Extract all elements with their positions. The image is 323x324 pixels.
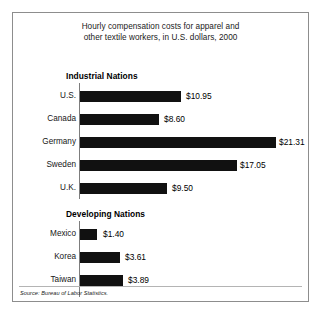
bar-value-canada: $8.60 [164,113,185,125]
bar-rect-us [80,91,181,102]
bar-rect-taiwan [80,275,123,286]
bar-row-mexico: Mexico $1.40 [13,229,308,240]
bar-rect-uk [80,183,167,194]
source-note: Source: Bureau of Labor Statistics. [20,290,108,296]
group-header-industrial-nations: Industrial Nations [66,71,138,81]
bar-value-germany: $21.31 [279,136,305,148]
bar-value-us: $10.95 [186,90,212,102]
bar-value-uk: $9.50 [172,182,193,194]
bar-label-taiwan: Taiwan [13,274,76,286]
bar-row-korea: Korea $3.61 [13,252,308,263]
bar-label-us: U.S. [13,90,76,102]
bar-row-canada: Canada $8.60 [13,114,308,125]
bar-label-germany: Germany [13,136,76,148]
source-divider [19,286,302,287]
chart-title: Hourly compensation costs for apparel an… [13,21,308,43]
bar-row-uk: U.K. $9.50 [13,183,308,194]
bar-row-germany: Germany $21.31 [13,137,308,148]
bar-row-us: U.S. $10.95 [13,91,308,102]
bar-rect-germany [80,137,276,148]
bar-label-sweden: Sweden [13,159,76,171]
chart-title-line-1: Hourly compensation costs for apparel an… [13,21,308,32]
bar-row-taiwan: Taiwan $3.89 [13,275,308,286]
bar-label-korea: Korea [13,251,76,263]
bar-value-mexico: $1.40 [103,228,124,240]
bar-row-sweden: Sweden $17.05 [13,160,308,171]
chart-title-line-2: other textile workers, in U.S. dollars, … [13,32,308,43]
bar-rect-mexico [80,229,97,240]
group-header-developing-nations: Developing Nations [66,209,145,219]
bar-value-taiwan: $3.89 [128,274,149,286]
bar-label-mexico: Mexico [13,228,76,240]
bar-value-sweden: $17.05 [240,159,266,171]
bar-rect-canada [80,114,159,125]
bar-label-canada: Canada [13,113,76,125]
chart-figure: Hourly compensation costs for apparel an… [12,12,309,302]
bar-label-uk: U.K. [13,182,76,194]
bar-value-korea: $3.61 [125,251,146,263]
bar-rect-korea [80,252,120,263]
bar-rect-sweden [80,160,237,171]
